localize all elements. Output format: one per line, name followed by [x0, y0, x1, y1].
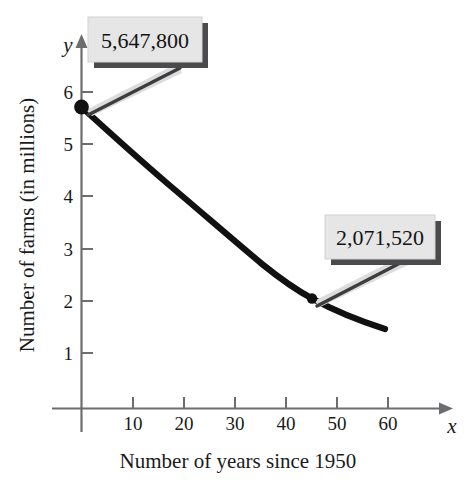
- callout-end-value: 2,071,520: [336, 225, 424, 250]
- y-tick-label-1: 1: [64, 343, 74, 364]
- x-axis-title: Number of years since 1950: [120, 449, 357, 473]
- x-axis-arrowhead: [439, 403, 453, 415]
- data-point-marker-end: [307, 293, 317, 303]
- x-tick-label-30: 30: [226, 413, 245, 434]
- y-tick-label-2: 2: [64, 291, 74, 312]
- x-tick-label-20: 20: [175, 413, 194, 434]
- x-tick-label-60: 60: [379, 413, 398, 434]
- callout-start-value: 5,647,800: [101, 28, 189, 53]
- callout-start-leader: [86, 63, 182, 116]
- callout-start[interactable]: 5,647,800: [88, 17, 208, 68]
- x-tick-label-50: 50: [328, 413, 347, 434]
- x-tick-label-10: 10: [124, 413, 143, 434]
- y-axis-arrowhead: [76, 34, 88, 48]
- x-tick-label-40: 40: [277, 413, 296, 434]
- y-tick-label-5: 5: [64, 134, 74, 155]
- farms-decay-chart: 6 5 4 3 2 1 10 20 30 40 50 60 y x Number…: [0, 0, 476, 488]
- y-tick-label-6: 6: [64, 82, 74, 103]
- data-point-marker-start: [74, 100, 89, 115]
- x-axis-variable-label: x: [446, 414, 457, 438]
- y-tick-label-3: 3: [64, 239, 74, 260]
- x-tick-labels: 10 20 30 40 50 60: [124, 413, 398, 434]
- y-tick-label-4: 4: [64, 186, 74, 207]
- callout-end[interactable]: 2,071,520: [325, 215, 441, 265]
- callout-end-leader-edge: [317, 260, 406, 306]
- y-axis-title: Number of farms (in millions): [15, 98, 39, 352]
- y-axis-variable-label: y: [61, 33, 73, 57]
- y-tick-marks: [82, 92, 94, 353]
- x-tick-marks: [133, 397, 388, 409]
- y-tick-labels: 6 5 4 3 2 1: [64, 82, 74, 364]
- callout-start-leader-edge: [88, 68, 180, 115]
